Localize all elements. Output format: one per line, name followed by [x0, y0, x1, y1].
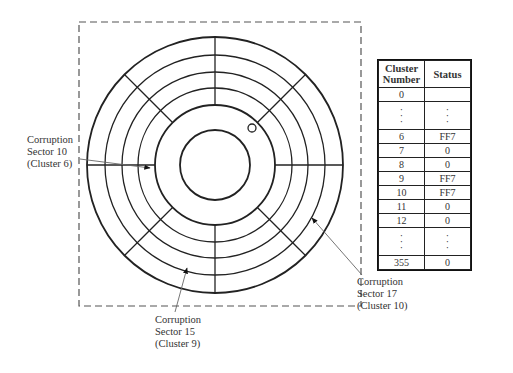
table-row: ······	[379, 228, 471, 256]
status-cell: 0	[425, 144, 471, 158]
callout-arrow-sector17	[312, 218, 362, 275]
callout-line: Corruption	[155, 314, 201, 326]
callout-arrow-sector10	[80, 159, 150, 168]
sector-divider	[257, 74, 305, 122]
table-row: 3550	[379, 256, 471, 270]
sector-divider	[124, 74, 172, 122]
cluster-number-cell: 12	[379, 214, 425, 228]
table-row: 70	[379, 144, 471, 158]
fat-cluster-table: Cluster Number Status 0······6FF770809FF…	[378, 60, 471, 270]
callout-line: Sector 17	[357, 288, 407, 300]
status-cell: 0	[425, 256, 471, 270]
status-cell: 0	[425, 158, 471, 172]
callout-label-sector-15: Corruption Sector 15 (Cluster 9)	[155, 314, 201, 350]
table-row: 9FF7	[379, 172, 471, 186]
status-cell: ···	[425, 228, 471, 256]
table-row: 10FF7	[379, 186, 471, 200]
callout-arrows	[80, 159, 362, 312]
table-row: 80	[379, 158, 471, 172]
status-cell	[425, 88, 471, 102]
cluster-number-cell: ···	[379, 228, 425, 256]
cluster-number-cell: 9	[379, 172, 425, 186]
cluster-number-cell: 355	[379, 256, 425, 270]
callout-line: Corruption	[357, 276, 407, 288]
status-cell: ···	[425, 102, 471, 130]
status-cell: FF7	[425, 172, 471, 186]
table-row: 120	[379, 214, 471, 228]
cluster-number-cell: 7	[379, 144, 425, 158]
callout-label-sector-17: Corruption Sector 17 (Cluster 10)	[357, 276, 407, 312]
callout-label-sector-10: Corruption Sector 10 (Cluster 6)	[27, 134, 73, 170]
cluster-number-cell: 0	[379, 88, 425, 102]
status-cell: 0	[425, 214, 471, 228]
table-row: ······	[379, 102, 471, 130]
sector-divider	[124, 207, 172, 255]
header-status: Status	[425, 61, 471, 88]
index-hole	[248, 124, 256, 132]
table-row: 110	[379, 200, 471, 214]
cluster-number-cell: 11	[379, 200, 425, 214]
spindle-hub	[180, 130, 250, 200]
table-row: 0	[379, 88, 471, 102]
callout-line: (Cluster 6)	[27, 158, 73, 170]
cluster-number-cell: ···	[379, 102, 425, 130]
callout-line: Corruption	[27, 134, 73, 146]
cluster-number-cell: 6	[379, 130, 425, 144]
sector-divider	[257, 207, 305, 255]
status-cell: 0	[425, 200, 471, 214]
table-body: 0······6FF770809FF710FF7110120······3550	[379, 88, 471, 270]
callout-line: (Cluster 10)	[357, 300, 407, 312]
status-cell: FF7	[425, 186, 471, 200]
table-header-row: Cluster Number Status	[379, 61, 471, 88]
status-cell: FF7	[425, 130, 471, 144]
header-cluster-number: Cluster Number	[379, 61, 425, 88]
inner-track-boundary	[155, 105, 275, 225]
callout-line: Sector 10	[27, 146, 73, 158]
callout-line: (Cluster 9)	[155, 338, 201, 350]
cluster-number-cell: 8	[379, 158, 425, 172]
callout-line: Sector 15	[155, 326, 201, 338]
cluster-number-cell: 10	[379, 186, 425, 200]
table-row: 6FF7	[379, 130, 471, 144]
